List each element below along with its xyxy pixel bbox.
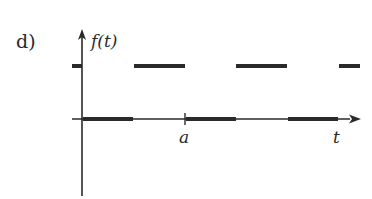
square-wave-diagram: d) f(t) t a [0, 0, 372, 199]
x-axis-arrow-icon [349, 115, 361, 124]
y-axis-label: f(t) [89, 31, 117, 51]
x-axis-label: t [333, 127, 340, 147]
panel-label: d) [16, 30, 36, 52]
tick-label-a: a [179, 127, 189, 147]
